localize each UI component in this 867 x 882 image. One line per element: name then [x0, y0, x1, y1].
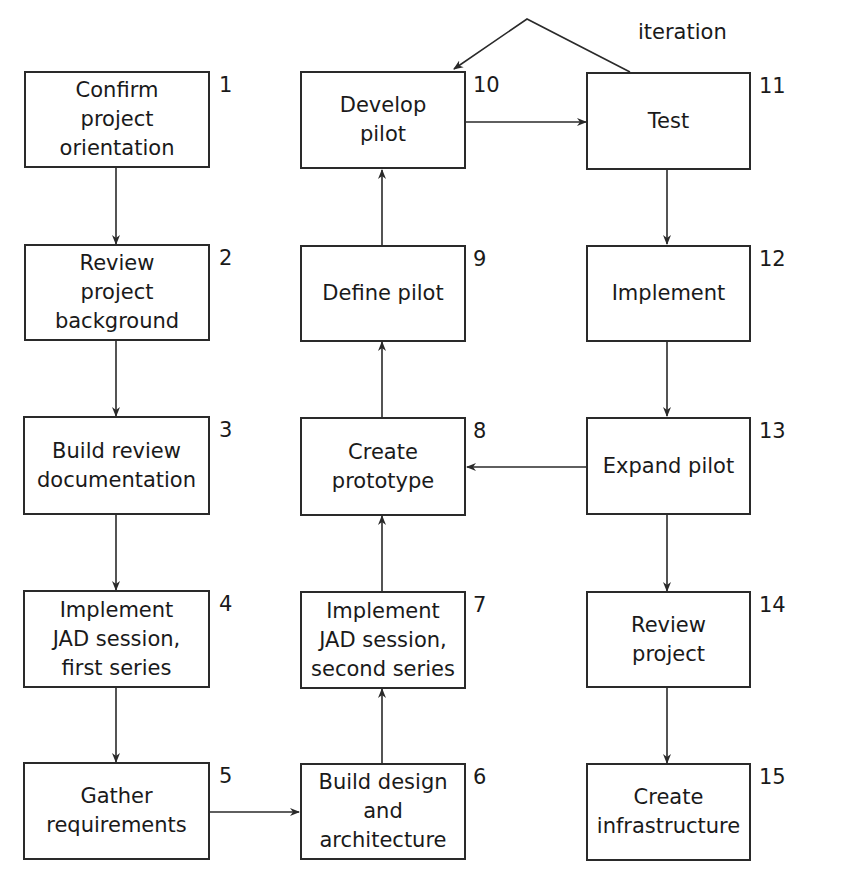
step-14-line-1: Review: [631, 611, 706, 640]
step-7-line-3: second series: [311, 655, 455, 684]
step-box-7[interactable]: ImplementJAD session,second series: [300, 591, 466, 689]
step-2-line-3: background: [55, 307, 179, 336]
step-box-8[interactable]: Createprototype: [300, 417, 466, 516]
step-box-11[interactable]: Test: [586, 72, 751, 170]
step-14-line-2: project: [631, 640, 706, 669]
step-6-line-2: and: [318, 797, 447, 826]
step-number-12: 12: [759, 247, 786, 271]
step-box-1[interactable]: Confirmprojectorientation: [24, 71, 210, 168]
edge-iteration-11-10: [454, 19, 630, 72]
step-number-3: 3: [219, 418, 232, 442]
iteration-label: iteration: [638, 20, 727, 44]
step-4-line-2: JAD session,: [53, 625, 180, 654]
step-7-line-1: Implement: [311, 597, 455, 626]
step-box-10[interactable]: Developpilot: [300, 71, 466, 169]
step-2-line-2: project: [55, 278, 179, 307]
step-11-line-1: Test: [648, 107, 689, 136]
step-8-line-2: prototype: [332, 467, 434, 496]
step-15-line-2: infrastructure: [597, 812, 740, 841]
step-1-line-3: orientation: [60, 134, 175, 163]
step-box-2[interactable]: Reviewprojectbackground: [24, 244, 210, 341]
step-4-line-1: Implement: [53, 596, 180, 625]
step-9-line-1: Define pilot: [322, 279, 443, 308]
step-number-5: 5: [219, 764, 232, 788]
step-number-14: 14: [759, 593, 786, 617]
step-number-8: 8: [473, 419, 486, 443]
step-15-line-1: Create: [597, 783, 740, 812]
step-3-line-2: documentation: [37, 466, 196, 495]
step-2-line-1: Review: [55, 249, 179, 278]
step-number-4: 4: [219, 592, 232, 616]
step-box-4[interactable]: ImplementJAD session,first series: [23, 590, 210, 688]
step-5-line-1: Gather: [46, 782, 187, 811]
step-number-2: 2: [219, 246, 232, 270]
step-1-line-1: Confirm: [60, 76, 175, 105]
step-box-3[interactable]: Build reviewdocumentation: [23, 416, 210, 515]
step-box-12[interactable]: Implement: [586, 245, 751, 342]
flowchart-canvas: iteration Confirmprojectorientation 1 Re…: [0, 0, 867, 882]
step-box-9[interactable]: Define pilot: [300, 245, 466, 342]
step-number-11: 11: [759, 74, 786, 98]
step-5-line-2: requirements: [46, 811, 187, 840]
step-box-6[interactable]: Build designandarchitecture: [300, 763, 466, 860]
step-number-6: 6: [473, 765, 486, 789]
step-6-line-3: architecture: [318, 826, 447, 855]
step-8-line-1: Create: [332, 438, 434, 467]
step-12-line-1: Implement: [612, 279, 726, 308]
step-3-line-1: Build review: [37, 437, 196, 466]
step-number-1: 1: [219, 73, 232, 97]
step-number-9: 9: [473, 247, 486, 271]
step-number-13: 13: [759, 419, 786, 443]
step-box-15[interactable]: Createinfrastructure: [586, 763, 751, 861]
step-number-15: 15: [759, 765, 786, 789]
step-number-10: 10: [473, 73, 500, 97]
step-box-5[interactable]: Gatherrequirements: [23, 762, 210, 860]
step-box-13[interactable]: Expand pilot: [586, 417, 751, 515]
step-10-line-1: Develop: [340, 91, 426, 120]
step-1-line-2: project: [60, 105, 175, 134]
step-7-line-2: JAD session,: [311, 626, 455, 655]
step-10-line-2: pilot: [340, 120, 426, 149]
step-box-14[interactable]: Reviewproject: [586, 591, 751, 688]
step-13-line-1: Expand pilot: [603, 452, 734, 481]
step-number-7: 7: [473, 593, 486, 617]
step-6-line-1: Build design: [318, 768, 447, 797]
step-4-line-3: first series: [53, 654, 180, 683]
